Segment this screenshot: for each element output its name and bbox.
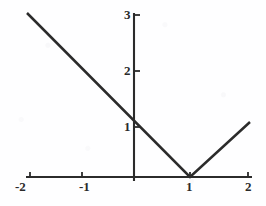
absolute-value-curve: [27, 13, 250, 177]
x-axis-tick-label-plus-two: 2: [245, 180, 252, 193]
graph-figure: -2 -1 1 2 1 2 3: [0, 0, 266, 206]
y-axis-tick-label-three: 3: [124, 8, 131, 21]
x-axis-tick-label-minus-two: -2: [15, 180, 26, 193]
plot-canvas: [0, 0, 266, 206]
y-axis-tick-label-two: 2: [124, 64, 131, 77]
x-axis-tick-label-minus-one: -1: [79, 180, 90, 193]
y-axis-tick-label-one: 1: [124, 120, 131, 133]
x-axis-tick-label-plus-one: 1: [186, 180, 193, 193]
